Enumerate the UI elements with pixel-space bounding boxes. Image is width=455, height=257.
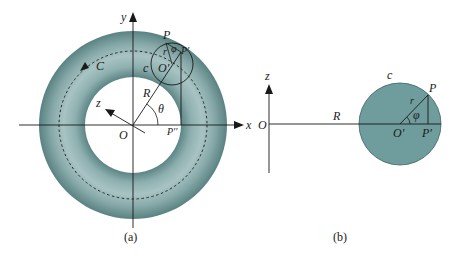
point-P2-label: P'' (166, 126, 178, 137)
curve-C-label: C (96, 59, 105, 73)
radius-R-label: R (142, 86, 151, 100)
point-P-label: P (162, 28, 171, 42)
section-c-b-label: c (387, 68, 393, 82)
z-axis (111, 113, 145, 133)
angle-theta-label: θ (158, 102, 164, 116)
angle-phi-b-label: φ (413, 108, 420, 122)
z-axis-label: z (95, 96, 101, 110)
center-O1-label: O' (158, 61, 170, 75)
origin-b-label: O (258, 118, 267, 132)
radius-r-label: r (163, 46, 167, 57)
origin-label: O (119, 128, 128, 142)
y-axis-label: y (120, 10, 127, 24)
z-axis-b-label: z (264, 69, 270, 83)
y-axis-arrow-icon (129, 12, 137, 22)
panel-b: z O R P r φ O' P' c (b) (258, 68, 441, 244)
z-axis-b-arrow-icon (265, 84, 273, 94)
point-P-b-label: P (428, 81, 437, 95)
x-axis-arrow-icon (234, 121, 244, 129)
section-c-label: c (143, 61, 149, 75)
x-axis-label: x (245, 118, 252, 132)
panel-a: x y z O R θ P'' P r φ P' O' c C (a (19, 10, 252, 244)
point-P1-b-label: P' (421, 126, 432, 140)
radius-r-b-label: r (410, 95, 414, 106)
caption-b: (b) (333, 230, 347, 244)
center-O1-b-label: O' (393, 126, 405, 140)
z-axis-arrow-icon (105, 109, 115, 117)
angle-theta-arc (147, 104, 158, 125)
caption-a: (a) (124, 230, 137, 244)
point-P1-label: P' (180, 45, 190, 56)
angle-phi-label: φ (171, 43, 177, 54)
torus-figure: x y z O R θ P'' P r φ P' O' c C (a (0, 0, 455, 257)
radius-R-b-label: R (332, 109, 341, 123)
